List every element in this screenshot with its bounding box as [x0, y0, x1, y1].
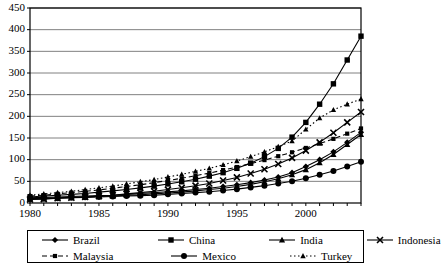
- data-point-marker: [345, 132, 349, 136]
- data-point-marker: [151, 177, 156, 182]
- legend-item-mexico[interactable]: Mexico: [169, 249, 236, 263]
- data-point-marker: [248, 154, 253, 159]
- legend-label: Malaysia: [70, 250, 113, 262]
- data-point-marker: [358, 96, 363, 101]
- data-point-marker: [235, 165, 239, 169]
- data-point-marker: [303, 120, 308, 125]
- data-point-marker: [331, 107, 336, 112]
- data-point-marker: [179, 190, 185, 196]
- legend-label: China: [186, 234, 215, 246]
- data-point-marker: [248, 171, 254, 177]
- data-point-marker: [53, 254, 57, 258]
- data-point-marker: [330, 168, 336, 174]
- data-point-marker: [317, 172, 323, 178]
- data-point-marker: [300, 253, 305, 258]
- legend-item-indonesia[interactable]: Indonesia: [365, 233, 441, 247]
- legend-label: Mexico: [199, 250, 236, 262]
- data-point-marker: [41, 196, 47, 202]
- y-axis-tick-label: 0: [20, 196, 26, 208]
- legend-marker-square-icon: [156, 233, 186, 247]
- data-point-marker: [82, 194, 88, 200]
- line-chart-svg: 0501001502002503003504004501980198519901…: [0, 0, 371, 222]
- plot-area: 0501001502002503003504004501980198519901…: [0, 0, 371, 222]
- data-point-marker: [275, 161, 281, 167]
- data-point-marker: [151, 192, 157, 198]
- data-point-marker: [234, 186, 240, 192]
- data-point-marker: [193, 174, 197, 178]
- data-point-marker: [52, 237, 58, 243]
- x-axis-tick-label: 1995: [226, 207, 249, 219]
- y-axis-tick-label: 200: [9, 109, 26, 121]
- data-point-marker: [220, 187, 226, 193]
- y-axis-tick-label: 50: [14, 174, 26, 186]
- legend-marker-triangle-icon: [267, 233, 297, 247]
- data-point-marker: [303, 126, 308, 131]
- data-point-marker: [248, 184, 254, 190]
- data-point-marker: [181, 253, 187, 259]
- data-point-marker: [344, 164, 350, 170]
- y-axis-tick-label: 150: [9, 131, 26, 143]
- legend-label: Brazil: [70, 234, 100, 246]
- data-point-marker: [179, 172, 184, 177]
- legend-label: India: [297, 234, 323, 246]
- legend-row: BrazilChinaIndiaIndonesia: [28, 232, 363, 248]
- legend-marker-diamond-icon: [40, 233, 70, 247]
- data-point-marker: [344, 119, 350, 125]
- legend-item-turkey[interactable]: Turkey: [288, 249, 352, 263]
- data-point-marker: [317, 102, 322, 107]
- legend-marker-triangle-small-icon: [288, 249, 318, 263]
- y-axis-tick-label: 250: [9, 87, 26, 99]
- data-point-marker: [303, 175, 309, 181]
- legend-label: Indonesia: [395, 234, 441, 246]
- data-point-marker: [262, 158, 266, 162]
- data-point-marker: [110, 194, 116, 200]
- legend-item-india[interactable]: India: [267, 233, 323, 247]
- data-point-marker: [330, 130, 336, 136]
- data-point-marker: [358, 159, 364, 165]
- data-point-marker: [345, 57, 350, 62]
- data-point-marker: [359, 126, 363, 130]
- data-point-marker: [249, 161, 253, 165]
- legend-item-china[interactable]: China: [156, 233, 215, 247]
- chart-legend: BrazilChinaIndiaIndonesiaMalaysiaMexicoT…: [27, 230, 364, 263]
- data-point-marker: [221, 168, 225, 172]
- data-point-marker: [234, 158, 239, 163]
- legend-marker-cross-icon: [365, 233, 395, 247]
- y-axis-tick-label: 300: [9, 66, 26, 78]
- data-point-marker: [96, 185, 101, 190]
- legend-item-malaysia[interactable]: Malaysia: [40, 249, 113, 263]
- data-point-marker: [206, 189, 212, 195]
- data-point-marker: [68, 195, 74, 201]
- data-point-marker: [220, 162, 225, 167]
- legend-item-brazil[interactable]: Brazil: [40, 233, 100, 247]
- data-point-marker: [318, 142, 322, 146]
- data-point-marker: [180, 176, 184, 180]
- data-point-marker: [124, 193, 130, 199]
- data-point-marker: [193, 190, 199, 196]
- data-point-marker: [290, 150, 294, 154]
- y-axis-tick-label: 450: [9, 1, 26, 13]
- data-point-marker: [276, 154, 280, 158]
- data-point-marker: [55, 195, 61, 201]
- y-axis-tick-label: 350: [9, 44, 26, 56]
- data-point-marker: [137, 193, 143, 199]
- x-axis-tick-label: 2000: [295, 207, 318, 219]
- data-point-marker: [261, 183, 267, 189]
- x-axis-tick-label: 1980: [19, 207, 42, 219]
- data-point-marker: [168, 237, 173, 242]
- data-point-marker: [304, 146, 308, 150]
- data-point-marker: [96, 194, 102, 200]
- x-axis-tick-label: 1985: [88, 207, 111, 219]
- data-point-marker: [275, 181, 281, 187]
- legend-row: MalaysiaMexicoTurkey: [28, 248, 363, 264]
- legend-label: Turkey: [318, 250, 352, 262]
- data-point-marker: [358, 33, 363, 38]
- legend-marker-circle-icon: [169, 249, 199, 263]
- data-point-marker: [207, 171, 211, 175]
- y-axis-tick-label: 100: [9, 152, 26, 164]
- data-point-marker: [331, 81, 336, 86]
- data-point-marker: [165, 191, 171, 197]
- data-point-marker: [289, 178, 295, 184]
- y-axis-tick-label: 400: [9, 22, 26, 34]
